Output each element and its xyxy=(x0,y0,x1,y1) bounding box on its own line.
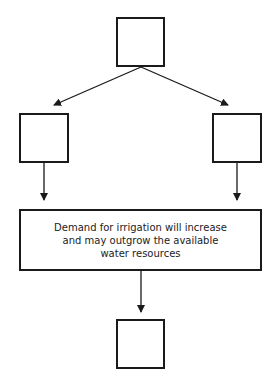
node-left-empty xyxy=(19,113,69,163)
node-top-empty xyxy=(116,17,165,67)
node-center-irrigation-demand: Demand for irrigation will increase and … xyxy=(19,209,262,271)
node-bottom-empty xyxy=(116,319,165,369)
arrow-top-to-right xyxy=(141,67,228,105)
node-right-empty xyxy=(212,113,262,163)
node-center-text: Demand for irrigation will increase and … xyxy=(54,221,227,260)
arrow-top-to-left xyxy=(54,67,141,105)
text-line-3: water resources xyxy=(54,247,227,260)
text-line-2: and may outgrow the available xyxy=(54,234,227,247)
text-line-1: Demand for irrigation will increase xyxy=(54,221,227,234)
